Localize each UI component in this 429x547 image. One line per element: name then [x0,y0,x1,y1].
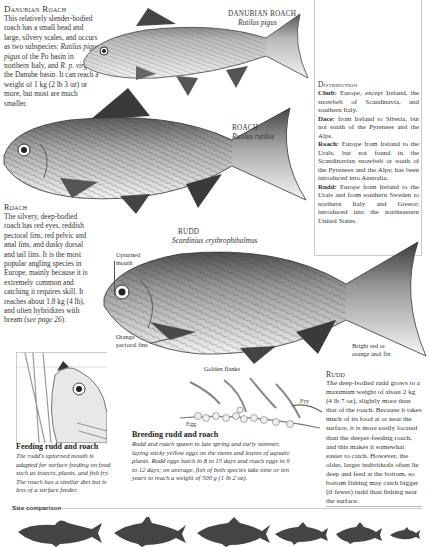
feeding-description: The rudd's upturned mouth is adapted for… [16,452,112,495]
silhouette-roach [197,517,270,547]
upturned-mouth-annotation: Upturned mouth [116,251,150,266]
upturned-mouth-leader [114,261,115,295]
size-comparison-silhouettes [0,517,429,547]
rudd-section: Rudd The deep-bodied rudd grows to a max… [326,370,422,506]
roach-section: Roach The silvery, deep-bodied roach has… [4,203,94,325]
silhouette-dace [336,522,382,544]
silhouette-chub [18,520,102,547]
silhouette-rudd [114,517,186,547]
rudd-description: The deep-bodied rudd grows to a maximum … [326,379,422,506]
rudd-heading: Rudd [326,370,422,379]
size-comparison-rule [62,508,422,509]
distribution-heading: Distribution [318,80,419,89]
roach-illustration [0,86,330,216]
roach-label: ROACH Rutilus rutilus [232,124,274,141]
see-page-link[interactable]: see page 26 [27,315,62,324]
distribution-entry-rudd: Rudd: Europe from Ireland to the Urals a… [318,183,419,226]
distribution-box-border-right [421,0,422,255]
golden-flanks-annotation: Golden flanks [204,365,240,373]
breeding-description: Rudd and roach spawn in late spring and … [132,440,292,483]
rudd-divider [326,506,422,507]
roach-description: The silvery, deep-bodied roach has red e… [4,212,94,325]
feeding-heading: Feeding rudd and roach [16,442,112,452]
roach-heading: Roach [4,203,94,212]
distribution-box-border [314,0,315,255]
feeding-illustration [16,352,107,443]
silhouette-small-fish [390,527,420,539]
feeding-section: Feeding rudd and roach The rudd's upturn… [16,442,112,495]
distribution-entry-dace: Dace: from Ireland to Siberia, but not s… [318,115,419,141]
breeding-heading: Breeding rudd and roach [132,430,292,440]
distribution-entry-roach: Roach: Europe from Ireland to the Urals,… [318,140,419,183]
silhouette-danubian-roach [275,522,328,545]
egg-annotation: Egg [186,420,196,428]
fry-annotation: Fry [300,397,309,405]
size-comparison-heading: Size comparison [12,504,61,511]
breeding-section: Breeding rudd and roach Rudd and roach s… [132,430,292,483]
distribution-entry-chub: Chub: Europe, except Ireland, the snowbe… [318,89,419,115]
bright-red-anal-annotation: Bright red or orange anal fin [352,342,400,357]
orange-pectoral-annotation: Orange pectoral fins [116,333,156,348]
distribution-section: Distribution Chub: Europe, except Irelan… [318,80,419,225]
